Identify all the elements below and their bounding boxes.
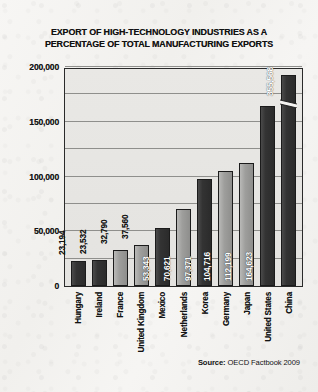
source-note: Source: OECD Factbook 2009 — [198, 358, 300, 367]
bar-value-label: 53,343 — [140, 257, 150, 281]
bar[interactable]: 32,790 — [113, 250, 128, 286]
x-axis-category-label: Japan — [243, 292, 252, 315]
bar-value-label: 104,716 — [201, 252, 211, 281]
source-label: Source: — [198, 358, 226, 367]
x-axis-category-label: France — [115, 292, 124, 318]
bar-slot: 37,560 — [131, 69, 152, 286]
x-axis-category: Korea — [194, 290, 215, 356]
x-axis-category-label: Hungary — [73, 292, 82, 324]
bar-value-label: 164,623 — [243, 252, 253, 281]
x-axis-category: Japan — [237, 290, 258, 356]
x-axis-category: Hungary — [67, 290, 88, 356]
bar-slot: 23,532 — [89, 69, 110, 286]
bar-value-label: 112,199 — [222, 253, 232, 281]
bar-value-label: 37,560 — [119, 214, 129, 238]
y-axis-tick-label: 200,000 — [29, 62, 59, 72]
source-text: OECD Factbook 2009 — [228, 358, 301, 367]
bar-value-label: 32,790 — [98, 220, 108, 244]
x-axis-category: Ireland — [88, 290, 109, 356]
chart-title: EXPORT OF HIGH-TECHNOLOGY INDUSTRIES AS … — [26, 26, 292, 49]
x-axis-category-labels: HungaryIrelandFranceUnited KingdomMexico… — [64, 290, 303, 356]
bar[interactable]: 23,194 — [71, 261, 86, 286]
bar-value-label: 23,532 — [77, 230, 87, 254]
chart-title-line-2: PERCENTAGE OF TOTAL MANUFACTURING EXPORT… — [26, 38, 292, 50]
axis-break-icon — [280, 94, 297, 103]
chart-figure: EXPORT OF HIGH-TECHNOLOGY INDUSTRIES AS … — [0, 0, 318, 392]
x-axis-category-label: Mexico — [158, 292, 167, 319]
bar-series: 23,19423,53232,79037,56053,34370,62197,3… — [65, 69, 302, 286]
bar-value-label: 70,621 — [161, 257, 171, 281]
y-axis-tick-label: 150,000 — [29, 117, 59, 127]
bar-slot: 70,621 — [173, 69, 194, 286]
bar[interactable]: 23,532 — [92, 260, 107, 286]
bar-slot: 53,343 — [152, 69, 173, 286]
y-axis-tick-label: 50,000 — [34, 226, 59, 236]
x-axis-category: France — [109, 290, 130, 356]
chart-title-line-1: EXPORT OF HIGH-TECHNOLOGY INDUSTRIES AS … — [26, 26, 292, 38]
bar-value-label: 23,194 — [56, 230, 66, 254]
y-axis-tick-label: 100,000 — [29, 172, 59, 182]
x-axis-category-label: United Kingdom — [137, 292, 146, 352]
x-axis-category-label: Ireland — [94, 292, 103, 317]
x-axis-category-label: Germany — [221, 292, 230, 326]
x-axis-category-label: China — [285, 292, 294, 314]
bar-slot: 32,790 — [110, 69, 131, 286]
bar-slot: 355,568 — [278, 69, 299, 286]
bar[interactable]: 355,568 — [281, 75, 296, 286]
x-axis-category: Mexico — [152, 290, 173, 356]
bar-value-label: 355,568 — [264, 67, 274, 96]
x-axis-category-label: Korea — [200, 292, 209, 314]
bar[interactable]: 164,623 — [260, 106, 275, 286]
bar-value-label: 97,371 — [182, 257, 192, 281]
bar-slot: 164,623 — [257, 69, 278, 286]
x-axis-category: United Kingdom — [131, 290, 152, 356]
x-axis-category: Netherlands — [173, 290, 194, 356]
x-axis-category-label: Netherlands — [179, 292, 188, 337]
x-axis-category: Germany — [215, 290, 236, 356]
plot-area: 050,000100,000150,000200,000 23,19423,53… — [64, 68, 303, 287]
y-axis-tick-label: 0 — [54, 281, 59, 291]
x-axis-category-label: United States — [264, 292, 273, 342]
x-axis-category: China — [279, 290, 300, 356]
x-axis-category: United States — [258, 290, 279, 356]
